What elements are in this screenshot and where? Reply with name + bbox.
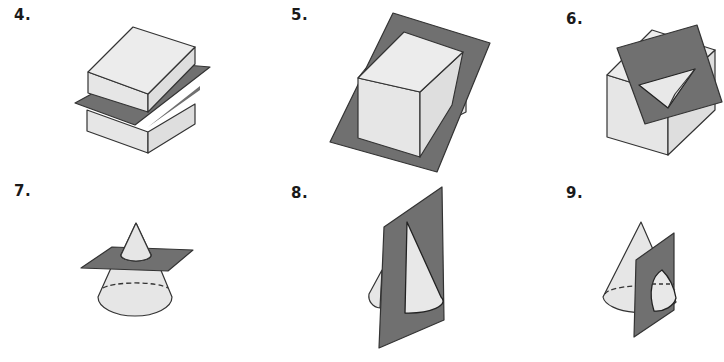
figure-4: 4.	[0, 0, 250, 180]
cube-corner-plane-diagram	[540, 0, 724, 180]
figure-5: 5.	[280, 0, 500, 180]
figure-7: 7.	[0, 180, 250, 362]
prism-horizontal-plane-diagram	[0, 0, 250, 180]
prism-tilted-plane-diagram	[280, 0, 500, 180]
cone-horizontal-plane-diagram	[0, 180, 250, 362]
figure-8: 8.	[280, 180, 500, 362]
figure-9: 9.	[540, 180, 724, 362]
cone-vertical-plane-apex-diagram	[280, 180, 500, 362]
figure-6: 6.	[540, 0, 724, 180]
cone-vertical-plane-hyperbola-diagram	[540, 180, 724, 362]
